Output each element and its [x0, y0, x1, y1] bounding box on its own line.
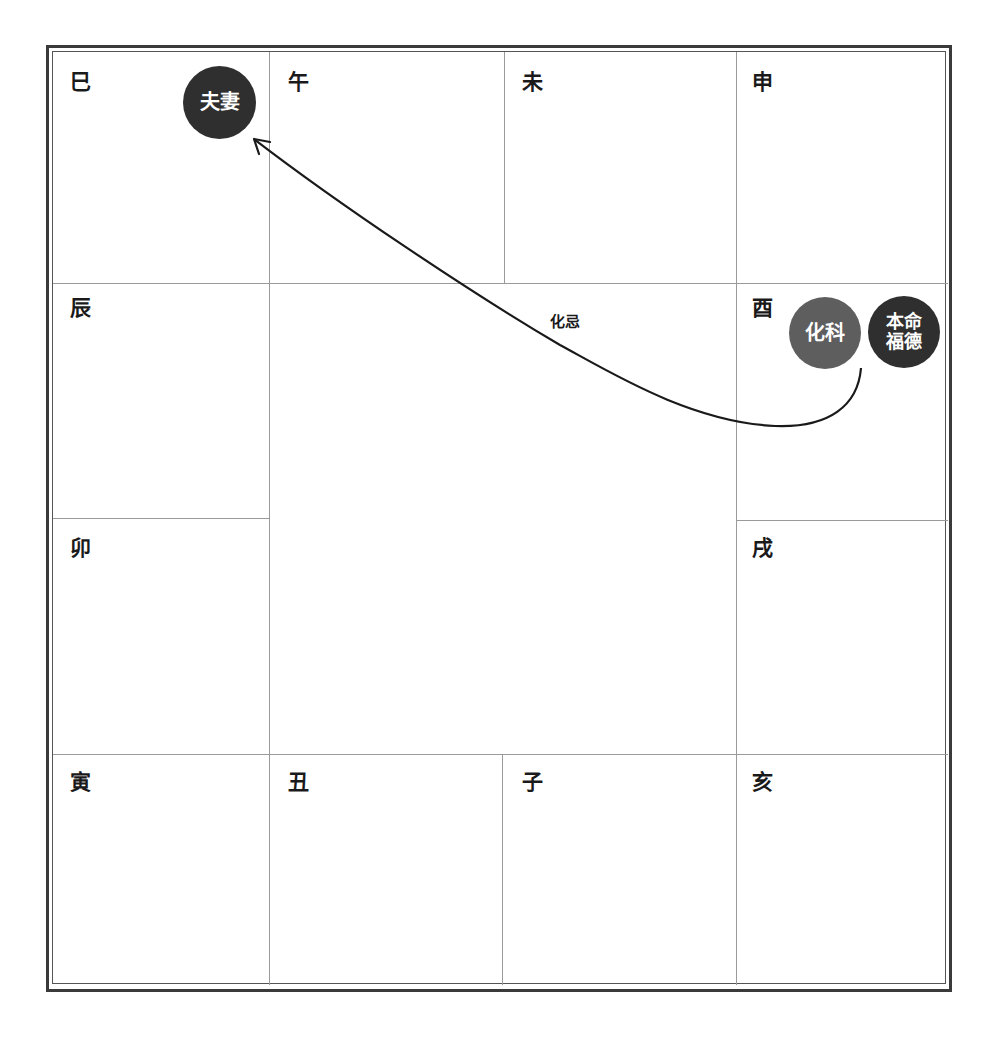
transform-ji-label: 化忌 — [550, 310, 580, 331]
transform-ji-arrow — [0, 0, 997, 1039]
